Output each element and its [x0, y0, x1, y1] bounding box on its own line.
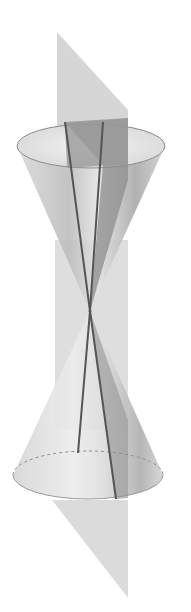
plane-lower [52, 500, 128, 598]
apex-point [89, 310, 92, 313]
plane-inside-upper-rim [65, 119, 128, 168]
double-cone-diagram [0, 0, 191, 612]
